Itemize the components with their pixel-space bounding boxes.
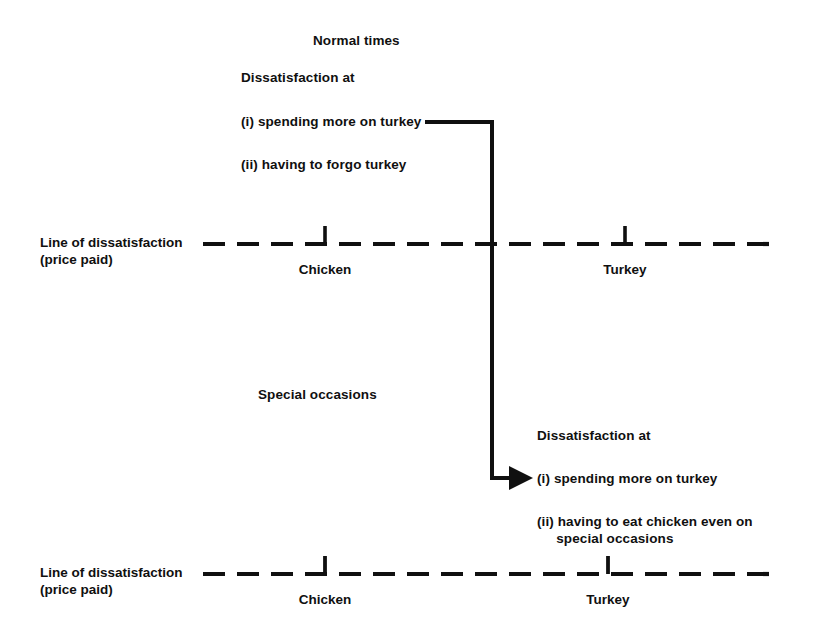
- special-occasions-heading: Special occasions: [258, 386, 377, 403]
- normal-times-callout-item-1: (i) spending more on turkey: [241, 113, 421, 130]
- special-occasions-callout-heading: Dissatisfaction at: [537, 427, 651, 444]
- normal-times-heading: Normal times: [313, 32, 400, 49]
- connector-arrow: [425, 122, 533, 490]
- special-occasions-callout-item-2: (ii) having to eat chicken even on: [537, 513, 753, 530]
- diagram-graphics: [0, 0, 816, 639]
- connector-arrow-head: [509, 466, 533, 490]
- connector-arrow-path: [425, 122, 512, 478]
- normal-times-callout-heading: Dissatisfaction at: [241, 69, 355, 86]
- special-occasions-callout-item-1: (i) spending more on turkey: [537, 470, 717, 487]
- normal-times-callout-item-2: (ii) having to forgo turkey: [241, 156, 406, 173]
- normal-times-axis-group: [203, 226, 776, 244]
- special-occasions-axis-label-line2: (price paid): [40, 581, 113, 598]
- normal-times-axis-label-line1: Line of dissatisfaction: [40, 234, 183, 251]
- normal-times-tick-label-turkey: Turkey: [565, 262, 685, 277]
- special-occasions-tick-label-chicken: Chicken: [265, 592, 385, 607]
- normal-times-axis-label-line2: (price paid): [40, 251, 113, 268]
- special-occasions-axis-label-line1: Line of dissatisfaction: [40, 564, 183, 581]
- diagram-canvas: Normal times Dissatisfaction at (i) spen…: [0, 0, 816, 639]
- special-occasions-axis-group: [203, 556, 776, 574]
- normal-times-tick-label-chicken: Chicken: [265, 262, 385, 277]
- special-occasions-tick-label-turkey: Turkey: [548, 592, 668, 607]
- special-occasions-callout-item-3: special occasions: [537, 530, 674, 547]
